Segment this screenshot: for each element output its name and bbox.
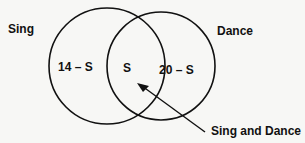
dance-label: Dance — [217, 24, 253, 38]
callout-arrow-line — [142, 86, 205, 132]
intersection-region: S — [123, 61, 131, 75]
sing-only-region: 14 – S — [58, 60, 93, 74]
intersection-callout: Sing and Dance — [211, 124, 301, 138]
venn-diagram — [0, 0, 305, 143]
dance-only-region: 20 – S — [159, 63, 194, 77]
sing-label: Sing — [8, 22, 34, 36]
